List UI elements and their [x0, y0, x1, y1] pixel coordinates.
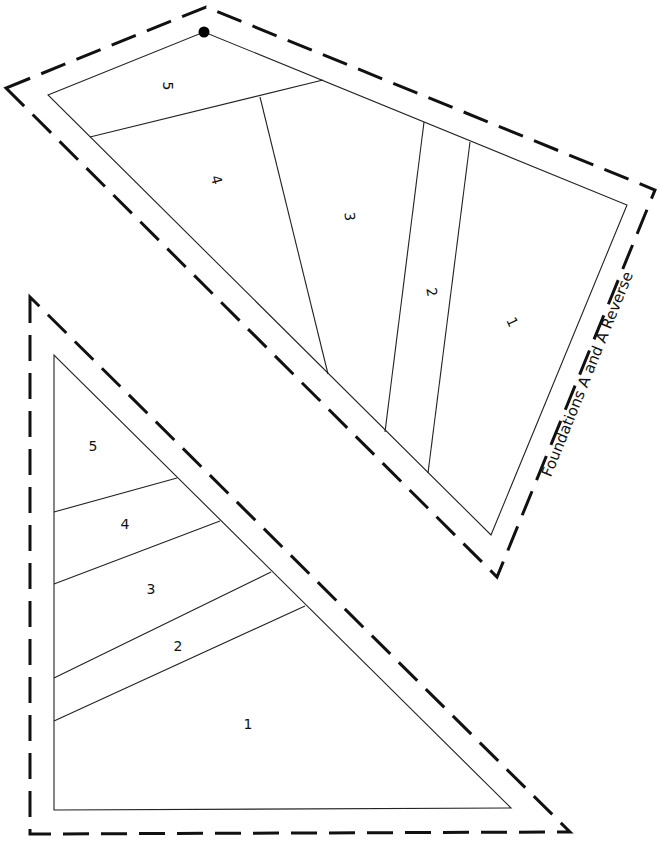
section-label-1: 1: [244, 716, 253, 732]
section-label-3: 3: [147, 581, 156, 597]
foundation-a-reverse: 5 4 3 2 1: [30, 297, 570, 834]
seam-line-3-2: [54, 572, 271, 678]
seam-line-4-3: [260, 97, 328, 374]
seam-line-5-4: [90, 80, 323, 137]
seam-line-2-1: [54, 606, 305, 721]
seam-line-4-3: [54, 521, 220, 584]
seam-line-2-1: [428, 142, 470, 473]
start-dot-icon: [199, 27, 210, 38]
section-label-4: 4: [121, 516, 130, 532]
section-label-5: 5: [89, 438, 98, 454]
section-label-3: 3: [342, 211, 359, 221]
seam-line-5-4: [54, 478, 177, 512]
section-label-5: 5: [160, 82, 176, 91]
foundation-outline: [48, 32, 627, 535]
foundation-a: 5 4 3 2 1: [6, 7, 655, 577]
seam-allowance-outline: [6, 7, 655, 577]
section-label-1: 1: [503, 314, 521, 329]
seam-allowance-outline: [30, 297, 570, 834]
section-label-4: 4: [208, 173, 226, 186]
section-label-2: 2: [174, 638, 183, 654]
foundation-outline: [54, 355, 511, 810]
section-label-2: 2: [423, 286, 440, 298]
seam-line-3-2: [385, 122, 424, 432]
foundation-pattern-diagram: 5 4 3 2 1 Foundations A and A Reverse 5 …: [0, 0, 662, 842]
